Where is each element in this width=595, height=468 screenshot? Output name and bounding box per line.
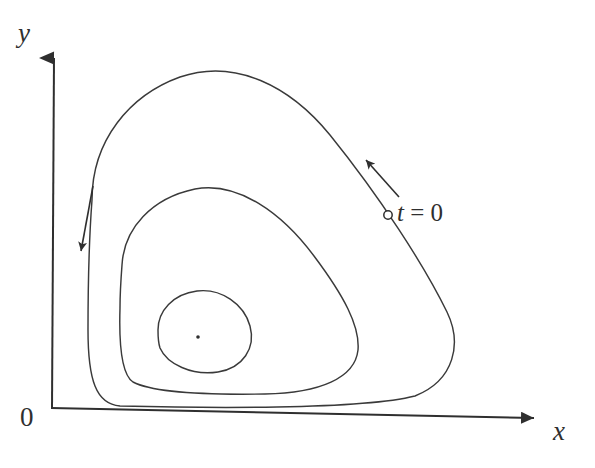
x-axis-label: x <box>553 418 565 445</box>
counterclockwise-flow-arrow-icon <box>366 160 399 197</box>
initial-time-label: t = 0 <box>397 200 443 225</box>
phase-portrait-figure: y x 0 t = 0 <box>0 0 595 468</box>
y-axis-label: y <box>18 20 30 47</box>
orbit-curve-outer <box>88 71 454 407</box>
y-axis-line <box>52 58 54 409</box>
origin-label: 0 <box>20 404 34 431</box>
orbit-curves-group <box>88 71 454 407</box>
initial-point-marker-icon <box>384 211 392 219</box>
phase-portrait-canvas <box>0 0 595 468</box>
initial-time-label-variable: t <box>397 199 404 226</box>
orbit-curve-inner <box>158 291 251 373</box>
initial-time-label-value: = 0 <box>404 199 443 226</box>
equilibrium-point-dot <box>196 335 200 339</box>
x-axis-line <box>51 408 534 418</box>
